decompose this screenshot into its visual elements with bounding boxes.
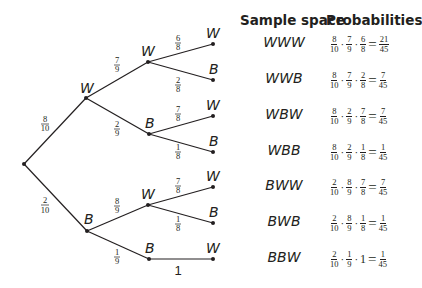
svg-text:8: 8 — [176, 151, 180, 161]
leaf-label: B — [209, 204, 219, 220]
branch-prob: 7 9 — [114, 55, 120, 74]
sample-outcome: WWW — [244, 34, 324, 50]
sample-outcome: WWB — [244, 70, 324, 86]
probability-result: 745 — [379, 107, 388, 126]
svg-text:9: 9 — [115, 256, 119, 266]
svg-text:8: 8 — [176, 223, 180, 233]
node-label: W — [80, 80, 95, 96]
branch-prob: 1 9 — [114, 247, 120, 266]
probability-expression: 210·89·18=145 — [330, 212, 387, 234]
svg-text:9: 9 — [115, 64, 119, 74]
svg-text:9: 9 — [115, 128, 119, 138]
branch-prob: 2 8 — [175, 75, 181, 94]
sample-outcome: BBW — [244, 249, 324, 265]
leaf-label: W — [206, 240, 221, 256]
leaf-label: W — [206, 97, 221, 113]
sample-outcome: WBW — [244, 106, 324, 122]
svg-text:10: 10 — [41, 205, 50, 215]
probability-result: 745 — [379, 71, 388, 90]
probability-expression: 810·79·68=2145 — [330, 33, 389, 55]
probability-expression: 810·79·28=745 — [330, 69, 387, 91]
probability-result: 145 — [379, 143, 388, 162]
branch-prob: 1 — [174, 263, 181, 278]
svg-text:2: 2 — [43, 195, 47, 205]
node-label: W — [141, 186, 156, 202]
svg-text:9: 9 — [115, 205, 119, 215]
probability-expression: 210·89·78=745 — [330, 176, 387, 198]
svg-text:8: 8 — [176, 42, 180, 52]
branch-prob: 8 10 — [41, 114, 50, 133]
tree-branches — [24, 44, 213, 259]
branch-prob: 1 8 — [175, 142, 181, 161]
node-label: B — [145, 115, 155, 131]
probability-result: 2145 — [379, 35, 390, 54]
sample-outcome: WBB — [244, 142, 324, 158]
root-node — [22, 162, 26, 166]
svg-text:8: 8 — [176, 84, 180, 94]
node-label: B — [145, 240, 155, 256]
node-label: W — [141, 43, 156, 59]
branch-prob: 8 9 — [114, 196, 120, 215]
sample-outcome: BWB — [244, 213, 324, 229]
probability-expression: 810·29·18=145 — [330, 141, 387, 163]
sample-outcome: BWW — [244, 177, 324, 193]
probability-result: 745 — [379, 178, 388, 197]
probability-result: 145 — [379, 250, 388, 269]
branch-prob: 7 8 — [175, 104, 181, 123]
tree-nodes — [22, 42, 215, 261]
leaf-label: W — [206, 168, 221, 184]
leaf-label: B — [209, 61, 219, 77]
svg-text:8: 8 — [176, 185, 180, 195]
branch-prob: 7 8 — [175, 176, 181, 195]
node-label: B — [84, 211, 94, 227]
branch-prob: 2 10 — [41, 195, 50, 215]
branch-prob: 2 9 — [114, 119, 120, 138]
probabilities-header: Probabilities — [326, 12, 422, 28]
probability-expression: 210·19·1=145 — [330, 248, 387, 270]
branch-prob: 6 8 — [175, 33, 181, 52]
probability-expression: 810·29·78=745 — [330, 105, 387, 127]
probability-result: 145 — [379, 214, 388, 233]
leaf-label: W — [206, 25, 221, 41]
svg-text:10: 10 — [41, 123, 50, 133]
svg-text:8: 8 — [176, 113, 180, 123]
branch-prob: 1 8 — [175, 214, 181, 233]
leaf-label: B — [209, 133, 219, 149]
